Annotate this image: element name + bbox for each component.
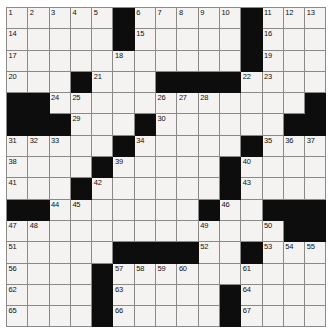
crossword-cell[interactable]: 50 <box>263 221 284 242</box>
crossword-cell[interactable] <box>92 93 113 114</box>
crossword-cell[interactable] <box>220 221 241 242</box>
crossword-cell[interactable] <box>177 178 198 199</box>
crossword-cell[interactable] <box>50 242 71 263</box>
crossword-cell[interactable]: 63 <box>113 285 134 306</box>
crossword-cell[interactable] <box>199 136 220 157</box>
crossword-cell[interactable]: 40 <box>241 157 262 178</box>
crossword-cell[interactable] <box>263 157 284 178</box>
crossword-cell[interactable] <box>263 93 284 114</box>
crossword-cell[interactable] <box>220 136 241 157</box>
crossword-cell[interactable]: 58 <box>135 264 156 285</box>
crossword-cell[interactable]: 42 <box>92 178 113 199</box>
crossword-cell[interactable] <box>199 114 220 135</box>
crossword-cell[interactable] <box>284 51 305 72</box>
crossword-cell[interactable] <box>177 306 198 327</box>
crossword-cell[interactable]: 54 <box>284 242 305 263</box>
crossword-cell[interactable] <box>305 178 326 199</box>
crossword-cell[interactable] <box>92 51 113 72</box>
crossword-cell[interactable] <box>156 51 177 72</box>
crossword-cell[interactable] <box>92 200 113 221</box>
crossword-cell[interactable] <box>71 29 92 50</box>
crossword-cell[interactable] <box>135 200 156 221</box>
crossword-cell[interactable]: 1 <box>7 8 28 29</box>
crossword-cell[interactable] <box>220 242 241 263</box>
crossword-cell[interactable] <box>113 93 134 114</box>
crossword-cell[interactable] <box>177 157 198 178</box>
crossword-cell[interactable]: 36 <box>284 136 305 157</box>
crossword-cell[interactable] <box>71 242 92 263</box>
crossword-cell[interactable] <box>28 72 49 93</box>
crossword-cell[interactable] <box>156 221 177 242</box>
crossword-cell[interactable] <box>92 221 113 242</box>
crossword-cell[interactable] <box>199 285 220 306</box>
crossword-cell[interactable]: 47 <box>7 221 28 242</box>
crossword-cell[interactable] <box>92 29 113 50</box>
crossword-cell[interactable] <box>199 306 220 327</box>
crossword-cell[interactable]: 59 <box>156 264 177 285</box>
crossword-cell[interactable]: 67 <box>241 306 262 327</box>
crossword-cell[interactable] <box>135 93 156 114</box>
crossword-cell[interactable] <box>177 51 198 72</box>
crossword-cell[interactable] <box>50 72 71 93</box>
crossword-cell[interactable]: 20 <box>7 72 28 93</box>
crossword-cell[interactable] <box>284 72 305 93</box>
crossword-cell[interactable] <box>220 93 241 114</box>
crossword-cell[interactable] <box>177 200 198 221</box>
crossword-cell[interactable] <box>305 51 326 72</box>
crossword-cell[interactable] <box>199 157 220 178</box>
crossword-cell[interactable] <box>135 285 156 306</box>
crossword-cell[interactable] <box>241 221 262 242</box>
crossword-cell[interactable]: 48 <box>28 221 49 242</box>
crossword-cell[interactable] <box>284 157 305 178</box>
crossword-cell[interactable] <box>156 306 177 327</box>
crossword-cell[interactable] <box>305 72 326 93</box>
crossword-cell[interactable] <box>113 221 134 242</box>
crossword-cell[interactable]: 5 <box>92 8 113 29</box>
crossword-cell[interactable]: 3 <box>50 8 71 29</box>
crossword-cell[interactable] <box>28 29 49 50</box>
crossword-cell[interactable]: 14 <box>7 29 28 50</box>
crossword-cell[interactable]: 35 <box>263 136 284 157</box>
crossword-cell[interactable]: 49 <box>199 221 220 242</box>
crossword-cell[interactable] <box>71 136 92 157</box>
crossword-cell[interactable] <box>71 51 92 72</box>
crossword-cell[interactable] <box>177 221 198 242</box>
crossword-cell[interactable] <box>177 114 198 135</box>
crossword-cell[interactable] <box>50 221 71 242</box>
crossword-cell[interactable] <box>220 114 241 135</box>
crossword-cell[interactable]: 29 <box>71 114 92 135</box>
crossword-cell[interactable] <box>156 136 177 157</box>
crossword-cell[interactable] <box>305 29 326 50</box>
crossword-cell[interactable]: 9 <box>199 8 220 29</box>
crossword-cell[interactable]: 44 <box>50 200 71 221</box>
crossword-cell[interactable] <box>220 29 241 50</box>
crossword-cell[interactable] <box>50 285 71 306</box>
crossword-cell[interactable] <box>28 242 49 263</box>
crossword-cell[interactable]: 18 <box>113 51 134 72</box>
crossword-cell[interactable] <box>199 264 220 285</box>
crossword-cell[interactable] <box>284 306 305 327</box>
crossword-cell[interactable]: 30 <box>156 114 177 135</box>
crossword-cell[interactable] <box>50 306 71 327</box>
crossword-cell[interactable] <box>156 285 177 306</box>
crossword-cell[interactable] <box>305 285 326 306</box>
crossword-cell[interactable]: 45 <box>71 200 92 221</box>
crossword-cell[interactable] <box>199 29 220 50</box>
crossword-cell[interactable] <box>284 264 305 285</box>
crossword-cell[interactable]: 27 <box>177 93 198 114</box>
crossword-cell[interactable]: 62 <box>7 285 28 306</box>
crossword-cell[interactable] <box>284 178 305 199</box>
crossword-cell[interactable] <box>92 136 113 157</box>
crossword-cell[interactable]: 21 <box>92 72 113 93</box>
crossword-cell[interactable] <box>71 306 92 327</box>
crossword-cell[interactable] <box>263 178 284 199</box>
crossword-cell[interactable]: 4 <box>71 8 92 29</box>
crossword-cell[interactable]: 60 <box>177 264 198 285</box>
crossword-cell[interactable]: 46 <box>220 200 241 221</box>
crossword-cell[interactable] <box>71 221 92 242</box>
crossword-cell[interactable]: 2 <box>28 8 49 29</box>
crossword-cell[interactable]: 53 <box>263 242 284 263</box>
crossword-cell[interactable]: 43 <box>241 178 262 199</box>
crossword-cell[interactable]: 31 <box>7 136 28 157</box>
crossword-cell[interactable]: 7 <box>156 8 177 29</box>
